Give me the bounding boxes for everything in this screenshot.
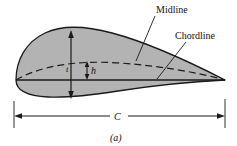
airfoil-diagram-canvas: t h Midline Chordline C (a) [0,0,237,146]
figure-caption: (a) [110,132,122,144]
camber-height-label: h [91,65,96,76]
chordline-label: Chordline [175,30,216,41]
airfoil-figure: t h Midline Chordline C (a) [0,0,237,146]
chord-label: C [114,111,121,122]
midline-label: Midline [156,4,188,15]
